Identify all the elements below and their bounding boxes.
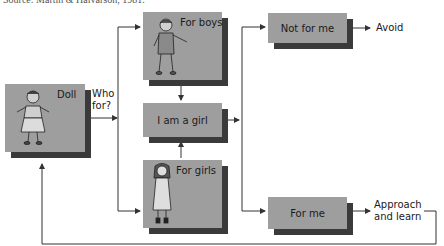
not-for-me-label: Not for me — [268, 23, 347, 34]
i-am-a-girl-label: I am a girl — [143, 115, 222, 126]
i-am-a-girl-node: I am a girl — [143, 103, 222, 137]
not-for-me-node: Not for me — [268, 13, 347, 43]
for-me-label: For me — [268, 208, 347, 219]
approach-and-learn-label: Approach and learn — [374, 199, 422, 223]
avoid-label: Avoid — [376, 22, 403, 34]
for-boys-label: For boys — [180, 17, 222, 28]
doll-label: Doll — [57, 89, 76, 100]
for-girls-node: For girls — [143, 160, 222, 228]
for-boys-node: For boys — [143, 12, 222, 80]
doll-node: Doll — [5, 84, 85, 152]
for-girls-label: For girls — [176, 165, 216, 176]
for-me-node: For me — [268, 197, 347, 229]
girl-figure-icon — [147, 162, 177, 226]
who-for-label: Who for? — [92, 88, 114, 112]
doll-figure-icon — [13, 88, 53, 148]
